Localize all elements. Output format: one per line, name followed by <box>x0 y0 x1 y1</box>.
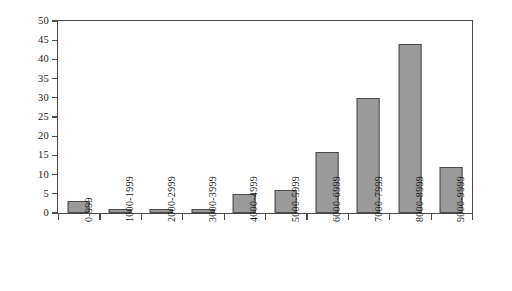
y-axis-tick: 10 <box>38 167 57 183</box>
x-axis-tick-label: 4000-4999 <box>248 176 259 222</box>
bars-area <box>58 21 472 213</box>
y-axis-tick: 0 <box>44 205 57 221</box>
y-axis-tick: 30 <box>38 90 57 106</box>
y-axis-tick-label: 45 <box>38 32 52 48</box>
y-axis-tick-mark <box>52 155 57 156</box>
x-axis-tick-mark <box>182 214 183 220</box>
y-axis-tick-mark <box>52 174 57 175</box>
x-axis-tick-label: 9000-9999 <box>455 176 466 222</box>
y-axis-tick-label: 25 <box>38 109 52 125</box>
y-axis-tick-label: 40 <box>38 51 52 67</box>
y-axis-tick-mark <box>52 193 57 194</box>
x-axis-ticks <box>58 214 472 221</box>
y-axis-tick-label: 5 <box>44 186 52 202</box>
y-axis-tick-label: 50 <box>38 13 52 29</box>
y-axis-tick: 50 <box>38 13 57 29</box>
x-axis-tick-label: 3000-3999 <box>207 176 218 222</box>
y-axis-tick-label: 0 <box>44 205 52 221</box>
y-axis-tick-mark <box>52 116 57 117</box>
x-axis-tick-mark <box>141 214 142 220</box>
x-axis-tick-mark <box>99 214 100 220</box>
x-axis-tick-mark <box>389 214 390 220</box>
x-axis-tick-mark <box>224 214 225 220</box>
x-axis-labels: 0-9991000-19992000-29993000-39994000-499… <box>58 222 472 291</box>
x-axis-tick-mark <box>306 214 307 220</box>
y-axis-tick-mark <box>52 212 57 213</box>
x-axis-tick-mark <box>58 214 59 220</box>
y-axis-tick-mark <box>52 136 57 137</box>
y-axis: 05101520253035404550 <box>0 12 57 222</box>
y-axis-tick-mark <box>52 78 57 79</box>
y-axis-tick: 35 <box>38 71 57 87</box>
x-axis-tick-label: 8000-8999 <box>414 176 425 222</box>
y-axis-tick-mark <box>52 59 57 60</box>
x-axis-tick-mark <box>265 214 266 220</box>
y-axis-tick: 40 <box>38 51 57 67</box>
y-axis-tick-mark <box>52 20 57 21</box>
y-axis-tick-mark <box>52 40 57 41</box>
y-axis-tick: 45 <box>38 32 57 48</box>
x-axis-tick-label: 5000-5999 <box>290 176 301 222</box>
y-axis-tick-label: 15 <box>38 147 52 163</box>
x-axis-tick-mark <box>431 214 432 220</box>
y-axis-tick-label: 20 <box>38 128 52 144</box>
y-axis-tick: 20 <box>38 128 57 144</box>
y-axis-tick: 25 <box>38 109 57 125</box>
y-axis-tick: 15 <box>38 147 57 163</box>
y-axis-tick: 5 <box>44 186 57 202</box>
x-axis-tick-mark <box>348 214 349 220</box>
y-axis-tick-label: 35 <box>38 71 52 87</box>
x-axis-tick-label: 2000-2999 <box>166 176 177 222</box>
y-axis-tick-mark <box>52 97 57 98</box>
x-axis-tick-label: 6000-6999 <box>331 176 342 222</box>
x-axis-tick-label: 7000-7999 <box>373 176 384 222</box>
bar-slot <box>58 21 99 213</box>
bar-chart: 05101520253035404550 0-9991000-19992000-… <box>0 0 512 291</box>
y-axis-tick-label: 10 <box>38 167 52 183</box>
x-axis-tick-label: 0-999 <box>83 197 94 222</box>
y-axis-tick-label: 30 <box>38 90 52 106</box>
x-axis-tick-label: 1000-1999 <box>124 176 135 222</box>
x-axis-tick-mark <box>472 214 473 220</box>
